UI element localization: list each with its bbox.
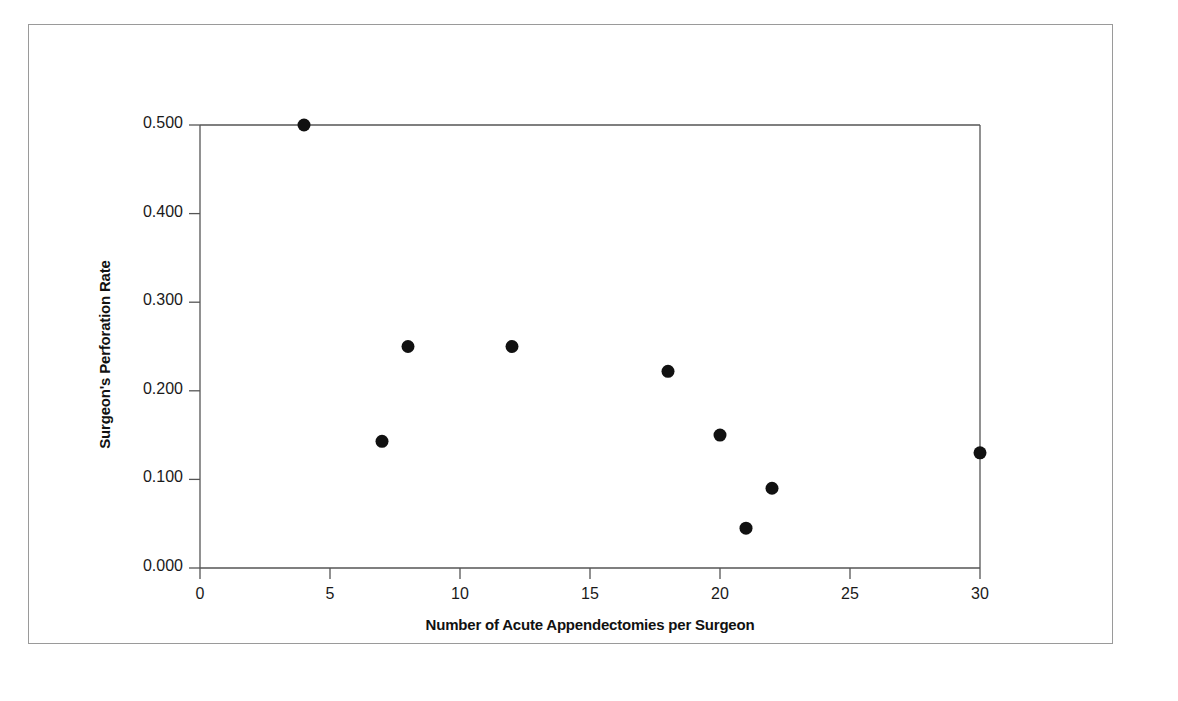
axes-group <box>200 125 980 568</box>
scatter-plot-figure: 0.0000.1000.2000.3000.4000.500 051015202… <box>0 0 1178 701</box>
y-tick-label-3: 0.300 <box>113 291 183 309</box>
data-point-1[interactable] <box>376 435 389 448</box>
data-point-4[interactable] <box>662 365 675 378</box>
data-point-8[interactable] <box>974 446 987 459</box>
x-tick-label-1: 5 <box>310 585 350 603</box>
data-point-0[interactable] <box>298 119 311 132</box>
y-tick-label-0: 0.000 <box>113 557 183 575</box>
y-tick-label-4: 0.400 <box>113 203 183 221</box>
tick-marks-group <box>189 125 980 579</box>
y-tick-label-2: 0.200 <box>113 380 183 398</box>
x-tick-label-5: 25 <box>830 585 870 603</box>
data-points-group <box>298 119 987 535</box>
data-point-3[interactable] <box>506 340 519 353</box>
x-tick-label-4: 20 <box>700 585 740 603</box>
y-tick-label-5: 0.500 <box>113 114 183 132</box>
x-tick-label-3: 15 <box>570 585 610 603</box>
data-point-6[interactable] <box>740 522 753 535</box>
x-tick-label-0: 0 <box>180 585 220 603</box>
x-tick-label-2: 10 <box>440 585 480 603</box>
data-point-5[interactable] <box>714 429 727 442</box>
data-point-7[interactable] <box>766 482 779 495</box>
data-point-2[interactable] <box>402 340 415 353</box>
y-tick-label-1: 0.100 <box>113 468 183 486</box>
x-axis-title: Number of Acute Appendectomies per Surge… <box>200 616 980 633</box>
x-tick-label-6: 30 <box>960 585 1000 603</box>
y-axis-title: Surgeon's Perforation Rate <box>96 133 113 576</box>
